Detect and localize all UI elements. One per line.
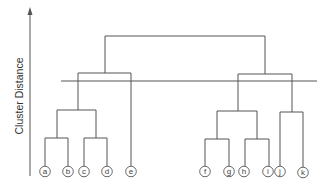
merge-fghi-jk: [238, 74, 292, 112]
merge-a-b: [45, 138, 68, 166]
svg-text:i: i: [267, 167, 269, 176]
merge-abcd-e: [78, 73, 131, 166]
svg-text:a: a: [43, 167, 48, 176]
svg-text:d: d: [105, 167, 109, 176]
leaf-e: e: [126, 166, 137, 177]
merge-j-k: [280, 112, 303, 167]
leaf-g: g: [224, 166, 235, 177]
leaf-b: b: [63, 166, 74, 177]
svg-text:b: b: [66, 167, 71, 176]
merge-ab-cd: [57, 110, 96, 138]
leaf-k: k: [298, 167, 309, 178]
merge-c-d: [84, 138, 107, 166]
svg-text:e: e: [129, 167, 134, 176]
y-axis: [28, 7, 33, 176]
leaf-j: j: [275, 166, 286, 177]
leaf-a: a: [40, 166, 51, 177]
merge-h-i: [245, 139, 269, 166]
merge-top: [105, 36, 265, 74]
arrow-up-icon: [28, 7, 33, 15]
svg-text:h: h: [242, 167, 246, 176]
y-axis-label: Cluster Distance: [13, 57, 25, 134]
svg-text:c: c: [82, 167, 86, 176]
leaf-i: i: [263, 166, 274, 177]
leaf-h: h: [239, 166, 250, 177]
svg-text:j: j: [278, 167, 281, 176]
merge-fg-hi: [217, 111, 257, 139]
svg-text:g: g: [227, 167, 231, 176]
leaf-d: d: [102, 166, 113, 177]
leaf-c: c: [79, 166, 90, 177]
merge-f-g: [205, 139, 229, 166]
dendrogram: Cluster Distance: [0, 0, 330, 190]
leaf-f: f: [200, 166, 211, 177]
